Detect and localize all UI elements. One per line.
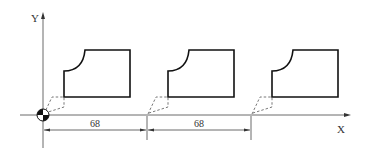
tool-path-dashed [252, 97, 272, 114]
y-axis-arrow-icon [41, 12, 45, 19]
x-axis-label: X [337, 123, 345, 135]
dimension-arrow-icon [44, 129, 50, 132]
origin-symbol-icon [37, 109, 49, 121]
dimension-label-2: 68 [194, 118, 204, 129]
part-outline [64, 50, 130, 97]
x-axis-arrow-icon [344, 113, 351, 117]
diagram-canvas: Y X 68 68 [0, 0, 369, 150]
part-outline [168, 50, 234, 97]
tool-path-dashed [148, 97, 168, 114]
dimension-arrow-icon [244, 129, 250, 132]
dimension-arrow-icon [140, 129, 146, 132]
dimension-arrow-icon [148, 129, 154, 132]
part-outline [272, 50, 338, 97]
y-axis-label: Y [31, 12, 39, 24]
part-3 [252, 50, 338, 114]
part-2 [148, 50, 234, 114]
part-1 [44, 50, 130, 114]
dimension-label-1: 68 [90, 118, 100, 129]
